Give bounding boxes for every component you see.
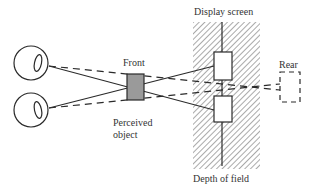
perceived-front-object: [127, 74, 144, 100]
screen-image-lower: [214, 96, 232, 122]
diagram-canvas: Display screen Front Rear Perceived obje…: [0, 0, 311, 192]
eye-icon-top: [14, 46, 48, 80]
perceived-object-label-line1: Perceived: [113, 117, 152, 128]
eye-icon-bottom: [14, 93, 48, 127]
rear-label: Rear: [279, 59, 298, 70]
perceived-object-label-line2: object: [113, 129, 137, 140]
screen-image-upper: [214, 52, 232, 80]
depth-of-field-label: Depth of field: [193, 173, 249, 184]
perceived-rear-object: [280, 72, 300, 102]
display-screen-label: Display screen: [194, 6, 253, 17]
front-label: Front: [123, 57, 145, 68]
